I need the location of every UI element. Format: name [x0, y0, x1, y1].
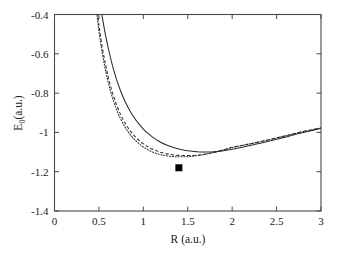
x-axis-title: R (a.u.) — [171, 233, 206, 246]
figure-background — [0, 0, 337, 256]
y-axis-title-units: (a.u.) — [12, 95, 25, 119]
x-tick-label-6: 3 — [318, 215, 324, 227]
marker-experimental-point — [175, 164, 182, 171]
x-tick-label-5: 2.5 — [270, 215, 284, 227]
figure-container: 00.511.522.53 -1.4-1.2-1-0.8-0.6-0.4 R (… — [0, 0, 337, 256]
x-tick-label-2: 1 — [141, 215, 147, 227]
x-tick-label-3: 1.5 — [181, 215, 195, 227]
x-axis-tick-labels: 00.511.522.53 — [52, 215, 325, 227]
y-tick-label-3: -0.8 — [31, 87, 49, 99]
y-tick-label-0: -1.4 — [31, 205, 49, 217]
y-tick-label-2: -1 — [39, 126, 48, 138]
data-markers-group — [175, 164, 182, 171]
x-tick-label-0: 0 — [52, 215, 58, 227]
y-tick-label-4: -0.6 — [31, 48, 49, 60]
x-tick-label-4: 2 — [229, 215, 235, 227]
y-tick-label-5: -0.4 — [31, 9, 49, 21]
y-axis-title-base: E — [12, 124, 24, 131]
x-tick-label-1: 0.5 — [92, 215, 106, 227]
potential-energy-curve-plot: 00.511.522.53 -1.4-1.2-1-0.8-0.6-0.4 R (… — [0, 0, 337, 256]
y-tick-label-1: -1.2 — [31, 166, 48, 178]
